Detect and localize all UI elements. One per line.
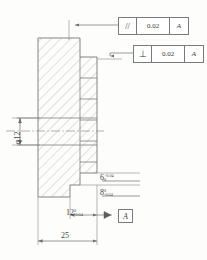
parallelism-symbol: // bbox=[119, 18, 137, 34]
datum-triangle bbox=[97, 212, 112, 219]
datum-letter: A bbox=[123, 212, 128, 221]
dimension-6: 6+0.040 bbox=[100, 173, 114, 182]
dimension-25-value: 25 bbox=[61, 231, 69, 240]
dimension-6-lower: 0 bbox=[104, 178, 114, 182]
datum-feature-label-a[interactable]: A bbox=[118, 209, 133, 223]
dimension-12: 120-0.04 bbox=[66, 208, 83, 217]
feature-control-frame-parallelism[interactable]: // 0.02 A bbox=[118, 17, 189, 35]
technical-drawing-sheet: // 0.02 A ⊥ 0.02 A A 6+0.040 80-0.04 120… bbox=[0, 0, 207, 260]
feature-control-frame-perpendicularity[interactable]: ⊥ 0.02 A bbox=[133, 45, 204, 63]
dimension-8: 80-0.04 bbox=[100, 188, 113, 197]
dimension-diameter-12: φ12 bbox=[13, 131, 22, 144]
perpendicularity-tolerance-value: 0.02 bbox=[152, 46, 185, 62]
drawing-canvas bbox=[0, 0, 207, 260]
dimension-6-tolerance: +0.040 bbox=[104, 174, 114, 182]
perpendicularity-datum-reference: A bbox=[185, 46, 203, 62]
perpendicularity-symbol: ⊥ bbox=[134, 46, 152, 62]
dimension-12-lower: -0.04 bbox=[74, 213, 83, 217]
dimension-8-tolerance: 0-0.04 bbox=[104, 189, 113, 197]
dimension-25: 25 bbox=[61, 231, 69, 240]
dimension-8-lower: -0.04 bbox=[104, 193, 113, 197]
parallelism-tolerance-value: 0.02 bbox=[137, 18, 170, 34]
dimension-diameter-12-value: φ12 bbox=[13, 131, 22, 144]
dimension-12-tolerance: 0-0.04 bbox=[74, 209, 83, 217]
dimension-12-value: 12 bbox=[66, 208, 74, 217]
parallelism-datum-reference: A bbox=[170, 18, 188, 34]
